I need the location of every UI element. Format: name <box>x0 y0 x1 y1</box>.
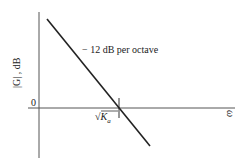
x-axis-label: ω <box>225 110 236 117</box>
asymptote-line <box>47 19 150 146</box>
k-subscript: a <box>107 117 111 125</box>
origin-label: 0 <box>31 98 36 108</box>
bode-plot-canvas <box>0 0 247 158</box>
y-axis-label: |G| , dB <box>11 58 22 88</box>
crossover-label: √Ka <box>95 112 111 126</box>
slope-annotation: − 12 dB per octave <box>82 45 158 55</box>
